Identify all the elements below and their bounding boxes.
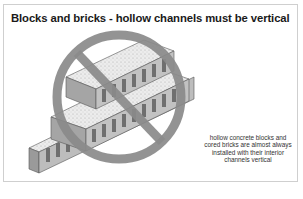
footer-text: .... — [138, 193, 156, 199]
caption-line: hollow concrete blocks and — [194, 134, 302, 141]
caption-line: channels vertical — [194, 156, 302, 163]
figure-panel: Blocks and bricks - hollow channels must… — [3, 4, 298, 182]
caption-line: installed with their interior — [194, 149, 302, 156]
caption-line: cored bricks are almost always — [194, 141, 302, 148]
figure-caption: hollow concrete blocks and cored bricks … — [194, 134, 302, 164]
